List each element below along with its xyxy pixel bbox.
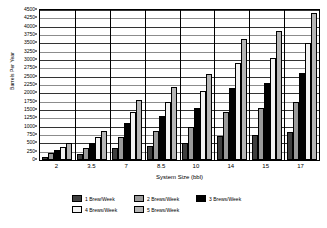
y-axis-tick-mark <box>35 142 37 143</box>
y-axis-tick-mark <box>35 75 37 76</box>
bar-group <box>40 10 75 160</box>
y-axis-tick-label: 3000 <box>24 57 35 62</box>
bar-group <box>284 10 319 160</box>
y-axis-tick-label: 250 <box>27 148 35 153</box>
group-separator <box>110 10 111 160</box>
group-separator <box>145 10 146 160</box>
x-axis-title: System Size (bbl) <box>39 174 320 180</box>
bar <box>311 13 317 160</box>
bar <box>206 74 212 160</box>
y-axis-tick-label: 4500 <box>24 7 35 12</box>
y-axis-tick-mark <box>35 109 37 110</box>
y-axis-tick-label: 3250 <box>24 48 35 53</box>
group-separator <box>284 10 285 160</box>
y-axis-tick-label: 750 <box>27 132 35 137</box>
y-axis-tick-label: 1500 <box>24 107 35 112</box>
bar-group <box>214 10 249 160</box>
legend-item: 5 Brews/Week <box>134 205 179 214</box>
legend-item: 2 Brews/Week <box>134 194 179 203</box>
y-axis-tick-mark <box>35 42 37 43</box>
bar-group <box>75 10 110 160</box>
legend-item: 1 Brew/Week <box>72 194 115 203</box>
y-axis-tick-label: 500 <box>27 140 35 145</box>
legend-swatch-icon <box>134 195 144 202</box>
x-axis-tick-label: 2 <box>55 163 58 170</box>
y-axis-tick-mark <box>35 50 37 51</box>
legend-swatch-icon <box>196 195 206 202</box>
y-axis-tick-label: 3500 <box>24 40 35 45</box>
bar-chart: Barrels Per Year 02505007501000125015001… <box>0 0 327 228</box>
legend-label: 2 Brews/Week <box>147 196 179 202</box>
group-separator <box>249 10 250 160</box>
bar <box>276 31 282 160</box>
plot-area <box>39 9 320 161</box>
bar <box>66 143 72 160</box>
y-axis-tick-label: 4000 <box>24 23 35 28</box>
x-axis-tick-label: 17 <box>297 163 304 170</box>
y-axis-tick-mark <box>35 59 37 60</box>
y-axis-tick-mark <box>35 159 37 160</box>
x-axis-tick-label: 15 <box>262 163 269 170</box>
y-axis-tick-label: 1250 <box>24 115 35 120</box>
y-axis-tick-mark <box>35 134 37 135</box>
y-axis-tick-labels: 0250500750100012501500175020002250250027… <box>0 9 37 161</box>
legend-label: 4 Brews/Week <box>85 207 117 213</box>
legend-item: 4 Brews/Week <box>72 205 117 214</box>
legend-label: 1 Brew/Week <box>85 196 115 202</box>
y-axis-tick-mark <box>35 150 37 151</box>
y-axis-tick-label: 3750 <box>24 32 35 37</box>
bar <box>241 39 247 160</box>
x-axis-tick-labels: 23.578.510141517 <box>39 163 320 173</box>
legend-swatch-icon <box>72 195 82 202</box>
y-axis-tick-mark <box>35 92 37 93</box>
bar <box>101 131 107 160</box>
x-axis-tick-label: 3.5 <box>87 163 95 170</box>
bar-group <box>249 10 284 160</box>
y-axis-tick-mark <box>35 84 37 85</box>
bar-group <box>180 10 215 160</box>
bars-layer <box>40 10 319 160</box>
x-axis-tick-label: 7 <box>125 163 128 170</box>
y-axis-tick-mark <box>35 17 37 18</box>
bar <box>136 100 142 160</box>
y-axis-tick-label: 2500 <box>24 73 35 78</box>
y-axis-tick-mark <box>35 25 37 26</box>
y-axis-tick-label: 2250 <box>24 82 35 87</box>
legend-item: 3 Brews/Week <box>196 194 241 203</box>
y-axis-tick-mark <box>35 9 37 10</box>
bar <box>171 87 177 160</box>
y-axis-tick-label: 1750 <box>24 98 35 103</box>
legend-label: 5 Brews/Week <box>147 207 179 213</box>
group-separator <box>75 10 76 160</box>
legend-label: 3 Brews/Week <box>209 196 241 202</box>
y-axis-tick-label: 2000 <box>24 90 35 95</box>
x-axis-tick-label: 10 <box>193 163 200 170</box>
chart-legend: 1 Brew/Week2 Brews/Week3 Brews/Week4 Bre… <box>72 194 257 220</box>
x-axis-tick-label: 14 <box>227 163 234 170</box>
group-separator <box>214 10 215 160</box>
y-axis-tick-mark <box>35 117 37 118</box>
legend-swatch-icon <box>134 206 144 213</box>
bar-group <box>110 10 145 160</box>
y-axis-tick-mark <box>35 34 37 35</box>
bar-group <box>145 10 180 160</box>
y-axis-tick-mark <box>35 67 37 68</box>
y-axis-tick-label: 4250 <box>24 15 35 20</box>
y-axis-tick-mark <box>35 125 37 126</box>
legend-swatch-icon <box>72 206 82 213</box>
y-axis-tick-label: 2750 <box>24 65 35 70</box>
group-separator <box>180 10 181 160</box>
y-axis-tick-label: 1000 <box>24 123 35 128</box>
y-axis-tick-mark <box>35 100 37 101</box>
x-axis-tick-label: 8.5 <box>157 163 165 170</box>
